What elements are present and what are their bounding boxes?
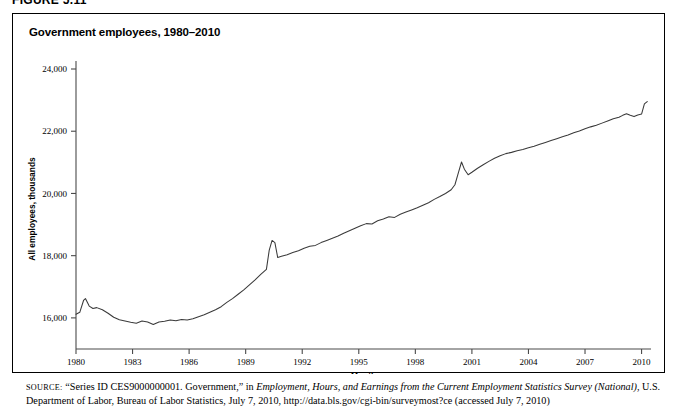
plot-area: 16,00018,00020,00022,00024,000 198019831… [13,14,666,374]
line-chart-svg: 16,00018,00020,00022,00024,000 198019831… [13,14,666,374]
x-tick-group: 1980198319861989199219951998200120042007… [67,349,651,367]
figure-number: FIGURE 5.11 [12,0,87,7]
y-tick-label: 16,000 [42,313,67,323]
source-note: SOURCE: “Series ID CES9000000001. Govern… [26,380,666,407]
data-series-line [76,102,647,325]
x-tick-label: 1986 [180,357,199,367]
y-axis-label: All employees, thousands [27,157,37,261]
y-tick-label: 20,000 [42,189,67,199]
x-tick-label: 1995 [350,357,369,367]
x-tick-label: 2010 [633,357,652,367]
x-tick-label: 1992 [293,357,311,367]
x-tick-label: 1983 [124,357,143,367]
y-tick-label: 24,000 [42,64,67,74]
source-publication-title: Employment, Hours, and Earnings from the… [256,381,637,392]
y-tick-group: 16,00018,00020,00022,00024,000 [42,64,76,323]
series-group [76,102,647,325]
x-axis-label: Month [351,371,376,374]
x-tick-label: 1980 [67,357,86,367]
axis-label-group: MonthAll employees, thousands [27,157,376,374]
x-tick-label: 1989 [237,357,256,367]
x-tick-label: 2007 [576,357,595,367]
chart-panel: Government employees, 1980–2010 16,00018… [12,13,665,373]
y-tick-label: 22,000 [42,126,67,136]
x-tick-label: 2004 [519,357,538,367]
y-tick-label: 18,000 [42,251,67,261]
axis-group [76,61,651,349]
x-tick-label: 2001 [463,357,481,367]
source-label: SOURCE: [26,383,63,392]
source-text-1: “Series ID CES9000000001. Government,” i… [63,381,257,392]
x-tick-label: 1998 [406,357,425,367]
